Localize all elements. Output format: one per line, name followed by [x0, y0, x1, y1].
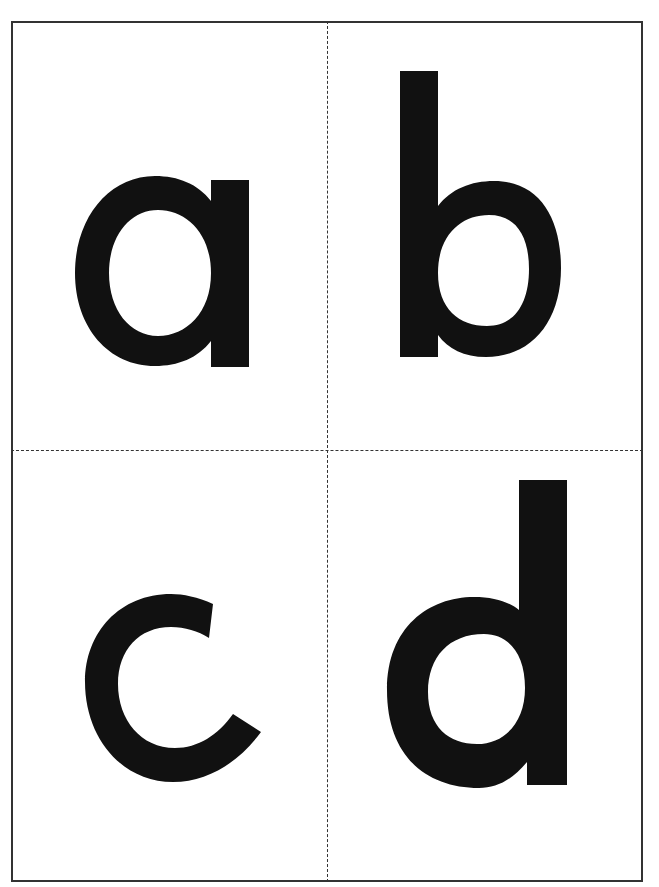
horizontal-cut-line [11, 450, 643, 451]
card-letter-d: d [329, 452, 643, 882]
card-letter-b: b [329, 23, 643, 450]
letter-c-glyph [13, 452, 327, 882]
letter-b-glyph [329, 23, 643, 450]
vertical-cut-line [327, 21, 328, 882]
card-letter-c: c [13, 452, 327, 882]
letter-a-glyph [13, 23, 327, 450]
letter-d-glyph [329, 452, 643, 882]
card-letter-a: a [13, 23, 327, 450]
